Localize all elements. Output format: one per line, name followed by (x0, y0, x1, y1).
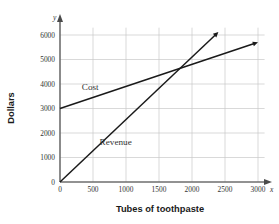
x-axis-title: Tubes of toothpaste (116, 204, 204, 214)
series-label-revenue: Revenue (100, 137, 132, 147)
y-tick-label: 5000 (40, 55, 55, 64)
x-axis-letter: x (269, 185, 274, 194)
y-tick-label: 0 (51, 178, 55, 187)
y-tick-label: 6000 (40, 31, 55, 40)
y-axis-title: Dollars (6, 92, 16, 124)
x-tick-label: 0 (58, 185, 62, 194)
x-tick-label: 500 (87, 185, 98, 194)
x-tick-label: 2000 (185, 185, 200, 194)
x-tick-label: 1000 (119, 185, 134, 194)
y-tick-label: 4000 (40, 80, 55, 89)
y-tick-label: 3000 (40, 104, 55, 113)
x-tick-label: 1500 (152, 185, 167, 194)
y-tick-label: 2000 (40, 129, 55, 138)
x-tick-label: 3000 (251, 185, 266, 194)
series-label-cost: Cost (82, 82, 99, 92)
x-tick-label: 2500 (218, 185, 233, 194)
y-axis-letter: y (52, 13, 57, 22)
y-tick-label: 1000 (40, 153, 55, 162)
chart-canvas: 0100020003000400050006000 05001000150020… (0, 0, 279, 224)
chart-figure: 0100020003000400050006000 05001000150020… (0, 0, 279, 224)
